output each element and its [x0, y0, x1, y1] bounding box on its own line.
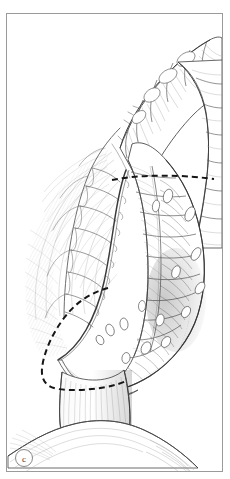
anatomical-illustration: c — [0, 0, 230, 479]
pelvic-floor — [8, 421, 198, 478]
panel-label-text: c — [22, 454, 26, 464]
figure-root: c — [0, 0, 230, 479]
panel-label: c — [16, 450, 33, 467]
